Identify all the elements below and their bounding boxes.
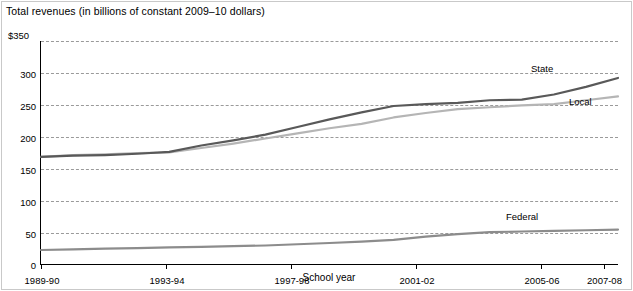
series-label-state: State: [531, 63, 553, 74]
xtick-2001-02: 2001-02: [416, 264, 417, 269]
line-state: [41, 78, 618, 157]
ytick-label-150: 150: [20, 165, 36, 176]
xtick-1997-98: 1997-98: [291, 264, 292, 269]
xtick-1993-94: 1993-94: [166, 264, 167, 269]
line-federal: [41, 230, 618, 250]
series-lines: [41, 41, 618, 264]
series-label-federal: Federal: [506, 211, 538, 222]
ytick-label-300: 300: [20, 69, 36, 80]
xtick-2005-06: 2005-06: [541, 264, 542, 269]
line-local: [41, 96, 618, 157]
ytick-label-250: 250: [20, 101, 36, 112]
xtick-2007-08: 2007-08: [604, 264, 605, 269]
ytick-label-100: 100: [20, 197, 36, 208]
xtick-1989-90: 1989-90: [41, 264, 42, 269]
plot-area: 300 250 200 150 100 50 0 1989-90 1993-94…: [40, 41, 618, 265]
series-label-local: Local: [569, 96, 592, 107]
ytick-label-50: 50: [25, 229, 36, 240]
y-axis-top-label: $350: [8, 30, 29, 41]
ytick-label-0: 0: [31, 260, 36, 271]
ytick-label-200: 200: [20, 133, 36, 144]
x-axis-title: School year: [40, 272, 618, 283]
chart-title: Total revenues (in billions of constant …: [6, 5, 265, 17]
chart-page: Total revenues (in billions of constant …: [0, 0, 633, 291]
